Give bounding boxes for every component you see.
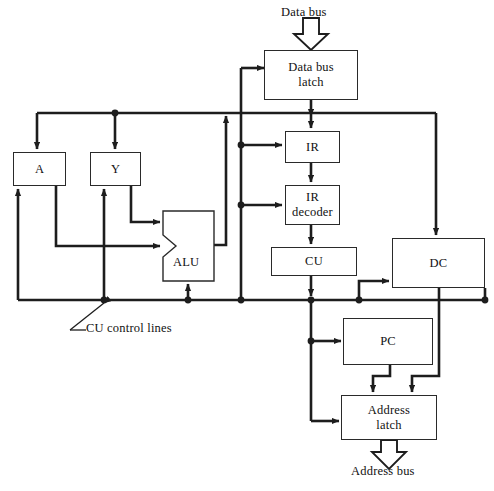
block-label: CU <box>305 254 323 269</box>
block-label-line1: Address <box>368 403 410 417</box>
junction-dot <box>308 297 315 304</box>
block-pc[interactable]: PC <box>343 318 433 365</box>
cu-control-lines-label: CU control lines <box>86 321 172 336</box>
data-bus-label: Data bus <box>281 5 327 20</box>
block-address-latch[interactable]: Address latch <box>341 395 437 440</box>
wire-alu-output-right <box>214 208 226 245</box>
address-bus-label: Address bus <box>351 464 415 479</box>
block-label-line1: Data bus <box>288 60 334 74</box>
junction-dot <box>356 297 363 304</box>
alu-shape <box>163 211 214 281</box>
block-label: A <box>35 162 44 177</box>
junction-dot <box>101 297 108 304</box>
junction-dot <box>185 297 192 304</box>
block-alu-label: ALU <box>173 255 199 270</box>
block-label: DC <box>430 256 448 271</box>
cpu-block-diagram: Data bus latch IR IR decoder CU DC A Y A… <box>0 0 494 491</box>
block-label: PC <box>380 334 396 349</box>
block-label: IR <box>306 140 319 155</box>
junction-dot <box>238 202 245 209</box>
block-a-register[interactable]: A <box>13 152 66 186</box>
wire-y-to-alu <box>131 186 160 222</box>
block-label-line1: IR <box>306 190 319 204</box>
wire-cu-to-dc <box>359 281 389 300</box>
block-ir-decoder[interactable]: IR decoder <box>285 185 340 225</box>
block-ir[interactable]: IR <box>285 131 340 163</box>
block-cu[interactable]: CU <box>271 247 357 276</box>
junction-dot <box>308 338 315 345</box>
wire-pc-to-addresslatch <box>373 365 390 392</box>
junction-dot <box>238 297 245 304</box>
junction-dot <box>482 297 489 304</box>
data-bus-in-arrow <box>294 18 328 50</box>
block-label: Y <box>111 162 120 177</box>
block-label-line2: decoder <box>292 205 333 219</box>
block-label-line2: latch <box>298 75 323 89</box>
block-y-register[interactable]: Y <box>90 152 141 186</box>
wire-a-to-alu <box>56 186 160 246</box>
junction-dot <box>238 142 245 149</box>
block-dc[interactable]: DC <box>392 238 485 288</box>
block-label-line2: latch <box>376 418 401 432</box>
block-data-bus-latch[interactable]: Data bus latch <box>264 50 358 100</box>
junction-dot <box>112 110 119 117</box>
